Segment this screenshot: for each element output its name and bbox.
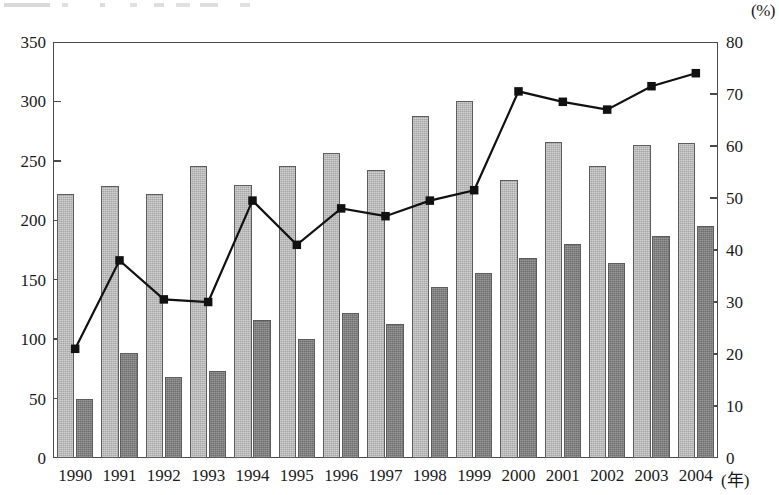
left-axis-tick-100: 100 <box>21 331 47 348</box>
right-axis-tick-80: 80 <box>726 34 743 51</box>
x-axis-label-1998: 1998 <box>413 466 447 486</box>
line-marker-1993 <box>204 298 213 307</box>
x-axis-unit-label: (年) <box>721 466 749 491</box>
right-axis-tick-40: 40 <box>726 242 743 259</box>
line-marker-1997 <box>381 212 390 221</box>
line-marker-2003 <box>647 82 656 91</box>
line-marker-2000 <box>514 87 523 96</box>
right-axis-tick-10: 10 <box>726 398 743 415</box>
cropped-caption-strip <box>4 0 304 10</box>
right-axis-tick-70: 70 <box>726 86 743 103</box>
right-axis-tick-20: 20 <box>726 346 743 363</box>
x-axis-label-1992: 1992 <box>147 466 181 486</box>
left-axis-tick-200: 200 <box>21 212 47 229</box>
line-marker-1991 <box>115 256 124 265</box>
x-axis-label-1999: 1999 <box>457 466 491 486</box>
line-marker-1998 <box>426 196 435 205</box>
x-axis-label-1993: 1993 <box>191 466 225 486</box>
line-marker-1996 <box>337 204 346 213</box>
x-axis-label-1995: 1995 <box>280 466 314 486</box>
left-axis-tick-300: 300 <box>21 93 47 110</box>
line-marker-2004 <box>692 69 701 78</box>
line-marker-1992 <box>160 295 169 304</box>
line-marker-1994 <box>248 196 257 205</box>
left-axis-tick-150: 150 <box>21 271 47 288</box>
right-axis-tick-30: 30 <box>726 294 743 311</box>
line-marker-2002 <box>603 105 612 114</box>
left-axis-tick-0: 0 <box>38 450 47 467</box>
x-axis-label-1994: 1994 <box>236 466 270 486</box>
line-marker-2001 <box>559 98 568 107</box>
x-axis-label-2003: 2003 <box>635 466 669 486</box>
right-axis-tick-50: 50 <box>726 190 743 207</box>
x-axis-label-1991: 1991 <box>103 466 137 486</box>
x-axis-tick-labels: 1990199119921993199419951996199719981999… <box>53 466 718 492</box>
left-axis-tick-250: 250 <box>21 152 47 169</box>
line-marker-1990 <box>71 345 80 354</box>
percentage-line-path <box>75 73 696 349</box>
line-marker-1995 <box>293 241 302 250</box>
left-axis-tick-50: 50 <box>29 390 46 407</box>
line-marker-1999 <box>470 186 479 195</box>
right-axis-tick-0: 0 <box>726 450 735 467</box>
x-axis-label-2001: 2001 <box>546 466 580 486</box>
right-axis-tick-60: 60 <box>726 138 743 155</box>
left-axis-tick-labels: 050100150200250300350 <box>0 0 46 495</box>
left-axis-tick-350: 350 <box>21 34 47 51</box>
x-axis-label-2000: 2000 <box>502 466 536 486</box>
x-axis-label-1990: 1990 <box>58 466 92 486</box>
line-series-layer <box>53 42 718 458</box>
right-axis-tick-labels: 01020304050607080 <box>726 0 778 495</box>
x-axis-label-2002: 2002 <box>590 466 624 486</box>
x-axis-label-1996: 1996 <box>324 466 358 486</box>
x-axis-label-1997: 1997 <box>369 466 403 486</box>
x-axis-label-2004: 2004 <box>679 466 713 486</box>
chart-figure: (%) 050100150200250300350 01020304050607… <box>0 0 779 495</box>
